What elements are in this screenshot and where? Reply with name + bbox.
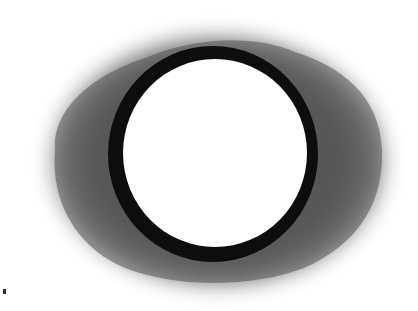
ring-drawing bbox=[0, 0, 418, 311]
ring-inner-hole bbox=[123, 59, 307, 247]
stray-mark bbox=[3, 289, 6, 294]
drawing-canvas bbox=[0, 0, 418, 311]
